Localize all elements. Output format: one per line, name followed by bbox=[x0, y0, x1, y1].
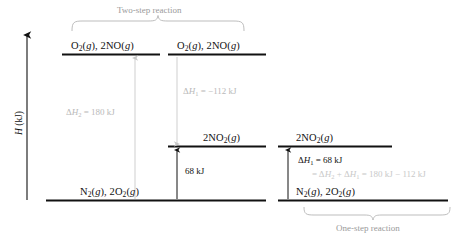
level-label-top-middle: O2(g), 2NO(g) bbox=[177, 40, 240, 53]
one-step-bracket bbox=[304, 207, 450, 220]
annotation-68kj: 68 kJ bbox=[185, 166, 204, 176]
level-label-right-bottom: N2(g), 2O2(g) bbox=[296, 186, 355, 199]
annotation-delta-h1: ΔH1 = −112 kJ bbox=[183, 86, 237, 97]
enthalpy-diagram: H (kJ) Two-step reaction One-step reacti… bbox=[0, 0, 459, 245]
level-label-right-top: 2NO2(g) bbox=[296, 132, 333, 145]
two-step-bracket bbox=[72, 16, 244, 32]
level-label-bottom-left: N2(g), 2O2(g) bbox=[80, 186, 139, 199]
one-step-reaction-caption: One-step reaction bbox=[336, 223, 400, 233]
annotation-delta-h2: ΔH2 = 180 kJ bbox=[66, 107, 115, 118]
level-label-middle-no2: 2NO2(g) bbox=[203, 132, 240, 145]
annotation-one-step-delta-h-line1: ΔH1 = 68 kJ bbox=[298, 155, 342, 166]
two-step-reaction-caption: Two-step reaction bbox=[117, 5, 182, 15]
diagram-canvas bbox=[0, 0, 459, 245]
axis-label-enthalpy: H (kJ) bbox=[14, 111, 24, 135]
annotation-one-step-delta-h-line2: = ΔH2 + ΔH1 = 180 kJ − 112 kJ bbox=[312, 169, 426, 180]
level-label-top-left: O2(g), 2NO(g) bbox=[71, 40, 134, 53]
